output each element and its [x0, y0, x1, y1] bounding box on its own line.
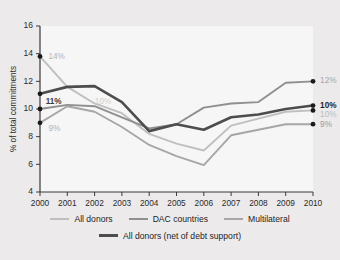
x-tick-label: 2004: [140, 198, 159, 208]
x-tick-label: 2009: [276, 198, 295, 208]
y-tick-label: 12: [24, 76, 34, 86]
x-tick-label: 2000: [31, 198, 50, 208]
endpoint-marker: [311, 122, 316, 127]
legend-item[interactable]: DAC countries: [129, 214, 208, 224]
y-tick-label: 14: [24, 48, 34, 58]
legend-label: All donors (net of debt support): [123, 231, 241, 241]
endpoint-marker: [311, 103, 316, 108]
y-tick-label: 4: [28, 186, 33, 196]
legend-swatch-icon: [129, 218, 148, 220]
legend-row: All donorsDAC countriesMultilateral: [0, 210, 340, 227]
endpoint-marker: [38, 91, 43, 96]
data-label: 9%: [48, 124, 60, 133]
data-label: 14%: [48, 52, 64, 61]
legend-swatch-icon: [50, 218, 69, 220]
x-tick-label: 2001: [58, 198, 77, 208]
legend-item[interactable]: All donors: [50, 214, 112, 224]
x-tick-label: 2002: [85, 198, 104, 208]
x-tick-label: 2007: [222, 198, 241, 208]
series-line-all-donors: [40, 56, 313, 150]
endpoint-marker: [311, 79, 316, 84]
endpoint-marker: [38, 120, 43, 125]
y-tick-label: 6: [28, 159, 33, 169]
data-label: 12%: [320, 76, 336, 85]
endpoint-marker: [38, 54, 43, 59]
x-tick-label: 2003: [113, 198, 132, 208]
data-label: 10%: [320, 101, 337, 110]
x-tick-label: 2008: [249, 198, 268, 208]
line-chart: 4681012141620002001200220032004200520062…: [0, 0, 340, 260]
data-label: 10%: [95, 97, 111, 106]
y-tick-label: 16: [24, 20, 34, 30]
y-axis-title: % of total commitments: [8, 66, 18, 152]
legend-label: Multilateral: [248, 214, 290, 224]
y-tick-label: 10: [24, 103, 34, 113]
legend-label: All donors: [74, 214, 112, 224]
legend-row: All donors (net of debt support): [0, 227, 340, 244]
y-tick-label: 8: [28, 131, 33, 141]
chart-legend: All donorsDAC countriesMultilateralAll d…: [0, 210, 340, 244]
legend-item[interactable]: Multilateral: [224, 214, 290, 224]
x-tick-label: 2006: [195, 198, 214, 208]
series-line-dac-countries: [40, 81, 313, 128]
data-label: 11%: [46, 97, 63, 106]
legend-label: DAC countries: [153, 214, 208, 224]
data-label: 10%: [320, 110, 336, 119]
data-label: 9%: [320, 120, 332, 129]
x-tick-label: 2005: [167, 198, 186, 208]
x-tick-label: 2010: [304, 198, 323, 208]
legend-item[interactable]: All donors (net of debt support): [99, 231, 241, 241]
endpoint-marker: [311, 108, 316, 113]
endpoint-marker: [38, 107, 43, 112]
legend-swatch-icon: [99, 234, 118, 237]
legend-swatch-icon: [224, 218, 243, 220]
